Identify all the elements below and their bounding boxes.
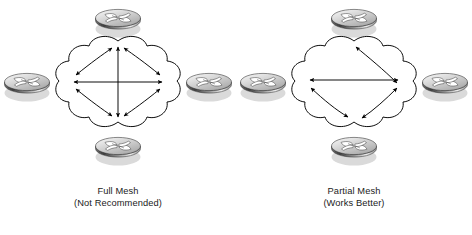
router-top[interactable] — [96, 9, 141, 37]
partial-mesh-caption: Partial Mesh (Works Better) — [236, 185, 472, 209]
full-mesh-diagram — [0, 0, 236, 200]
network-cloud — [292, 36, 416, 126]
diagram-canvas: Full Mesh (Not Recommended) — [0, 0, 472, 235]
partial-mesh-caption-line2: (Works Better) — [236, 197, 472, 209]
router-top[interactable] — [332, 9, 377, 37]
full-mesh-caption-line1: Full Mesh — [97, 186, 138, 196]
router-right[interactable] — [187, 73, 232, 101]
partial-mesh-caption-line1: Partial Mesh — [328, 186, 381, 196]
router-left[interactable] — [241, 73, 286, 101]
full-mesh-caption: Full Mesh (Not Recommended) — [0, 185, 236, 209]
router-left[interactable] — [5, 73, 50, 101]
panel-partial-mesh: Partial Mesh (Works Better) — [236, 0, 472, 235]
router-right[interactable] — [423, 73, 468, 101]
full-mesh-caption-line2: (Not Recommended) — [0, 197, 236, 209]
router-bottom[interactable] — [96, 137, 141, 165]
panel-full-mesh: Full Mesh (Not Recommended) — [0, 0, 236, 235]
router-bottom[interactable] — [332, 137, 377, 165]
partial-mesh-diagram — [236, 0, 472, 200]
